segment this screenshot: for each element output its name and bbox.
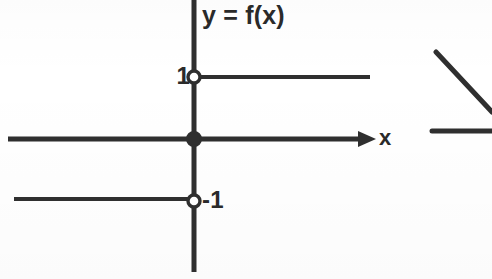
tick-label-positive-one: 1 bbox=[168, 64, 190, 88]
tick-label-negative-one: -1 bbox=[202, 188, 224, 212]
x-axis-arrow-icon bbox=[358, 131, 376, 147]
x-axis-label: x bbox=[379, 127, 391, 149]
adjacent-figure-fragment bbox=[432, 52, 492, 131]
open-point-at-negative-one bbox=[188, 195, 200, 207]
function-label: y = f(x) bbox=[202, 3, 285, 28]
graph-svg bbox=[0, 0, 492, 279]
fragment-diagonal-stroke bbox=[436, 52, 492, 112]
math-figure-canvas: y = f(x) 1 -1 x bbox=[0, 0, 492, 279]
closed-point-at-origin bbox=[187, 132, 201, 146]
